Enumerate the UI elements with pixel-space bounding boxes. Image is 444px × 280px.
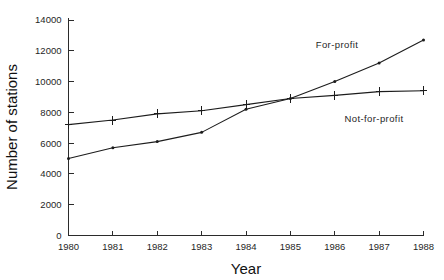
y-tick-label: 10000	[35, 76, 61, 87]
data-point-marker-plus	[198, 106, 205, 115]
data-point-marker-dot	[111, 146, 114, 149]
y-tick-label: 6000	[40, 138, 61, 149]
data-point-marker-plus	[420, 86, 427, 95]
series-annotation-for-profit: For-profit	[316, 39, 359, 50]
x-axis-tick-labels: 198019811982198319841985198619871988	[58, 241, 434, 252]
series-annotation-not-for-profit: Not-for-profit	[345, 113, 404, 124]
data-point-marker-plus	[109, 116, 116, 125]
x-tick-label: 1988	[413, 241, 434, 252]
line-chart: 02000400060008000100001200014000 1980198…	[0, 0, 444, 280]
x-tick-label: 1981	[102, 241, 123, 252]
x-tick-label: 1986	[324, 241, 345, 252]
data-point-marker-plus	[287, 94, 294, 103]
x-tick-label: 1985	[280, 241, 301, 252]
x-tick-label: 1980	[58, 241, 79, 252]
y-axis-ticks	[69, 20, 74, 236]
data-point-marker-plus	[331, 91, 338, 100]
y-tick-label: 8000	[40, 107, 61, 118]
x-tick-label: 1984	[235, 241, 256, 252]
series-annotations: For-profitNot-for-profit	[316, 39, 404, 124]
data-markers-group	[65, 39, 427, 161]
x-tick-label: 1987	[369, 241, 390, 252]
data-point-marker-dot	[200, 131, 203, 134]
data-point-marker-plus	[154, 109, 161, 118]
x-axis-ticks	[69, 231, 424, 236]
x-tick-label: 1982	[147, 241, 168, 252]
y-axis-title: Number of stations	[3, 64, 20, 190]
data-point-marker-plus	[243, 100, 250, 109]
axes	[69, 18, 424, 236]
data-point-marker-plus	[376, 87, 383, 96]
y-tick-label: 4000	[40, 168, 61, 179]
data-point-marker-dot	[422, 39, 425, 42]
y-tick-label: 0	[56, 230, 61, 241]
x-axis-title: Year	[231, 260, 261, 277]
y-tick-label: 14000	[35, 14, 61, 25]
data-point-marker-dot	[156, 140, 159, 143]
data-point-marker-dot	[67, 157, 70, 160]
y-tick-label: 2000	[40, 199, 61, 210]
y-axis-tick-labels: 02000400060008000100001200014000	[35, 14, 61, 241]
data-point-marker-plus	[65, 120, 72, 129]
chart-figure: 02000400060008000100001200014000 1980198…	[0, 0, 444, 280]
data-point-marker-dot	[333, 80, 336, 83]
x-tick-label: 1983	[191, 241, 212, 252]
data-series-group	[69, 40, 424, 159]
y-tick-label: 12000	[35, 45, 61, 56]
data-point-marker-dot	[378, 62, 381, 65]
series-line-for-profit	[69, 40, 424, 159]
